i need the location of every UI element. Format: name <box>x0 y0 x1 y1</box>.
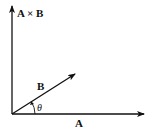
angle-label: θ <box>37 102 42 113</box>
cross-product-label: A × B <box>17 7 44 19</box>
vector-a-label: A <box>75 117 83 129</box>
vector-b-label: B <box>37 80 45 92</box>
vector-diagram: A × B B θ A <box>0 0 148 138</box>
